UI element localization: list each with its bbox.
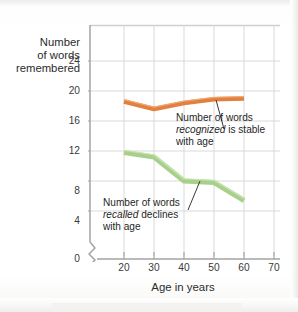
y-tick-label-0: 0 <box>58 253 80 264</box>
annotation-recognized-line-1: Number of words <box>176 112 253 123</box>
annotation-recalled-line-2-tail: declines <box>138 209 178 220</box>
y-tick-label-12: 12 <box>58 145 80 156</box>
y-tick-label-4: 4 <box>58 215 80 226</box>
x-tick-label-20: 20 <box>113 262 135 273</box>
y-tick-label-8: 8 <box>58 185 80 196</box>
x-tick-label-70: 70 <box>263 262 285 273</box>
x-tick-label-30: 30 <box>143 262 165 273</box>
x-tick-label-60: 60 <box>233 262 255 273</box>
y-tick-label-24: 24 <box>58 55 80 66</box>
annotation-recognized: Number of words recognized is stable wit… <box>176 112 286 148</box>
x-tick-label-50: 50 <box>203 262 225 273</box>
annotation-recalled: Number of words recalled declines with a… <box>103 197 207 233</box>
y-tick-label-20: 20 <box>58 85 80 96</box>
annotation-recognized-line-3: with age <box>176 136 214 147</box>
page-edge-right <box>290 0 298 312</box>
page-edge-top <box>0 0 298 7</box>
annotation-recalled-emphasis: recalled <box>103 209 138 220</box>
annotation-recalled-line-1: Number of words <box>103 197 180 208</box>
y-tick-label-16: 16 <box>58 115 80 126</box>
annotation-recalled-line-3: with age <box>103 221 141 232</box>
x-tick-label-40: 40 <box>173 262 195 273</box>
annotation-recognized-line-2-tail: is stable <box>225 124 265 135</box>
y-axis-title-line-1: Number <box>2 36 80 49</box>
annotation-recognized-emphasis: recognized <box>176 124 225 135</box>
page-edge-bottom-band <box>52 303 242 312</box>
x-axis-title: Age in years <box>88 281 278 293</box>
figure-container: Number of words remembered 24 20 16 12 8… <box>0 0 298 312</box>
